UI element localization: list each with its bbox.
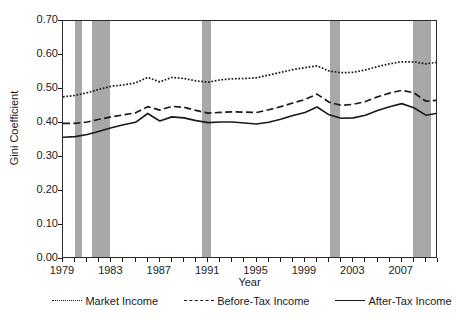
y-axis-tick-mark — [58, 88, 62, 89]
y-axis-tick-label: 0.70 — [22, 14, 58, 25]
plot-area — [62, 20, 437, 258]
x-axis-tick-mark — [122, 258, 123, 262]
legend-item: Before-Tax Income — [184, 295, 309, 307]
gini-coefficient-chart: Gini Coefficient 0.000.100.200.300.400.5… — [0, 0, 456, 320]
x-axis-tick-mark — [364, 258, 365, 262]
x-axis-tick-mark — [135, 258, 136, 262]
x-axis-tick-mark — [195, 258, 196, 262]
x-axis-tick-mark — [437, 258, 438, 262]
legend-item: Market Income — [52, 295, 158, 307]
x-axis-tick-label: 1979 — [42, 264, 82, 276]
x-axis-tick-mark — [425, 258, 426, 262]
y-axis-tick-label: 0.60 — [22, 48, 58, 59]
y-axis-tick-mark — [58, 156, 62, 157]
legend-line-icon — [335, 297, 365, 305]
x-axis-tick-mark — [159, 258, 160, 262]
y-axis-tick-mark — [58, 54, 62, 55]
x-axis-tick-mark — [292, 258, 293, 262]
x-axis-tick-mark — [401, 258, 402, 262]
y-axis-tick-mark — [58, 224, 62, 225]
x-axis-tick-mark — [219, 258, 220, 262]
x-axis-tick-mark — [304, 258, 305, 262]
x-axis-tick-mark — [413, 258, 414, 262]
legend-line-icon — [52, 297, 82, 305]
x-axis-tick-label: 1983 — [90, 264, 130, 276]
y-axis-tick-mark — [58, 122, 62, 123]
legend-label: Before-Tax Income — [217, 295, 309, 307]
x-axis-tick-mark — [183, 258, 184, 262]
x-axis-tick-mark — [231, 258, 232, 262]
y-axis-tick-label: 0.30 — [22, 150, 58, 161]
x-axis-tick-mark — [352, 258, 353, 262]
x-axis-tick-mark — [147, 258, 148, 262]
x-axis-tick-mark — [98, 258, 99, 262]
x-axis-tick-mark — [243, 258, 244, 262]
y-axis-tick-mark — [58, 190, 62, 191]
y-axis-tick-label: 0.50 — [22, 82, 58, 93]
x-axis-tick-mark — [280, 258, 281, 262]
legend-item: After-Tax Income — [335, 295, 451, 307]
x-axis-tick-mark — [328, 258, 329, 262]
chart-legend: Market IncomeBefore-Tax IncomeAfter-Tax … — [62, 292, 442, 310]
x-axis-title: Year — [62, 276, 437, 288]
x-axis-tick-label: 2003 — [332, 264, 372, 276]
y-axis-tick-label: 0.10 — [22, 218, 58, 229]
x-axis-tick-mark — [268, 258, 269, 262]
series-line — [63, 62, 437, 97]
x-axis-tick-mark — [316, 258, 317, 262]
x-axis-tick-mark — [377, 258, 378, 262]
x-axis-tick-label: 2007 — [381, 264, 421, 276]
series-line — [63, 104, 437, 138]
x-axis-tick-mark — [86, 258, 87, 262]
x-axis-tick-mark — [389, 258, 390, 262]
y-axis-tick-label: 0.20 — [22, 184, 58, 195]
y-axis-tick-label: 0.40 — [22, 116, 58, 127]
x-axis-tick-mark — [207, 258, 208, 262]
x-axis-tick-label: 1987 — [139, 264, 179, 276]
x-axis-tick-mark — [62, 258, 63, 262]
x-axis-tick-mark — [340, 258, 341, 262]
legend-label: After-Tax Income — [368, 295, 451, 307]
y-axis-tick-mark — [58, 258, 62, 259]
x-axis-tick-label: 1995 — [236, 264, 276, 276]
x-axis-tick-label: 1999 — [284, 264, 324, 276]
legend-line-icon — [184, 297, 214, 305]
x-axis-tick-mark — [110, 258, 111, 262]
x-axis-tick-label: 1991 — [187, 264, 227, 276]
x-axis-tick-mark — [171, 258, 172, 262]
x-axis-tick-mark — [74, 258, 75, 262]
series-line — [63, 90, 437, 123]
legend-label: Market Income — [85, 295, 158, 307]
x-axis-tick-mark — [256, 258, 257, 262]
y-axis-tick-label: 0.00 — [22, 252, 58, 263]
y-axis-tick-mark — [58, 20, 62, 21]
series-lines — [63, 21, 437, 258]
